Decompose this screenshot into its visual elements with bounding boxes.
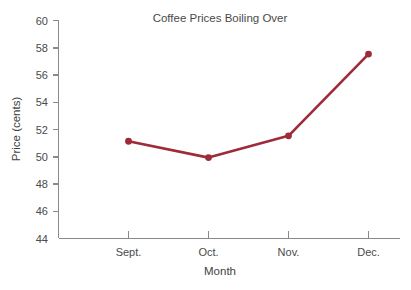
- y-axis-label-52: 52: [36, 124, 48, 136]
- y-axis-label-56: 56: [36, 69, 48, 81]
- y-axis-label-58: 58: [36, 42, 48, 54]
- x-axis-label-dec: Dec.: [357, 246, 380, 258]
- chart-container: Coffee Prices Boiling Over 60 58 56 54 5…: [0, 0, 411, 290]
- y-axis-label-54: 54: [36, 96, 48, 108]
- y-axis-label-60: 60: [36, 15, 48, 27]
- y-axis-title: Price (cents): [10, 97, 22, 162]
- x-axis-title: Month: [204, 265, 236, 277]
- data-point-nov: [285, 132, 292, 139]
- y-axis-label-50: 50: [36, 151, 48, 163]
- data-point-oct: [205, 154, 212, 161]
- x-axis-label-oct: Oct.: [198, 246, 218, 258]
- data-point-sept: [125, 138, 132, 145]
- y-axis-label-48: 48: [36, 178, 48, 190]
- y-axis-label-44: 44: [36, 233, 48, 245]
- chart-title: Coffee Prices Boiling Over: [153, 12, 288, 24]
- line-chart: Coffee Prices Boiling Over 60 58 56 54 5…: [0, 0, 411, 290]
- y-axis-label-46: 46: [36, 205, 48, 217]
- y-axis-labels: 60 58 56 54 52 50 48 46 44: [36, 15, 48, 245]
- data-point-dec: [365, 51, 372, 58]
- x-axis-label-nov: Nov.: [278, 246, 300, 258]
- x-axis-label-sept: Sept.: [116, 246, 142, 258]
